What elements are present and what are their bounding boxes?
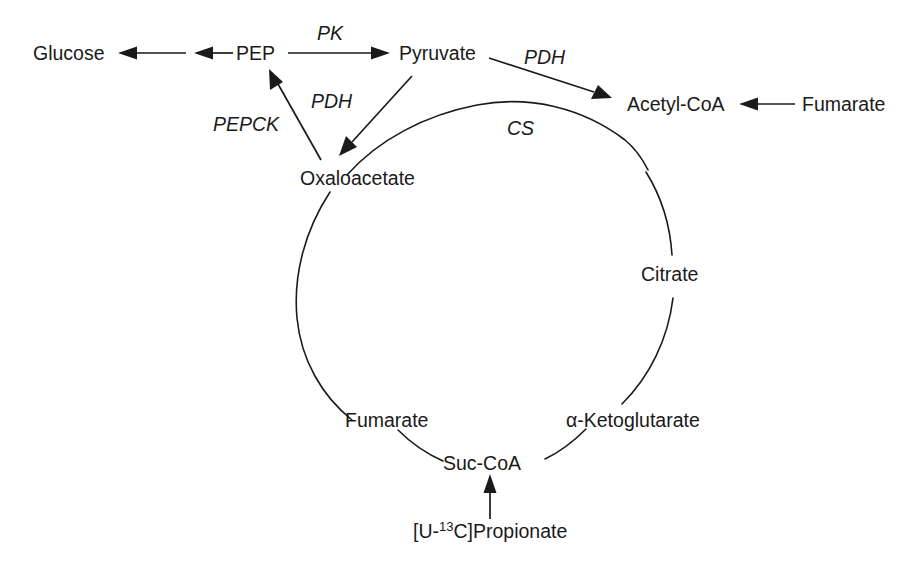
- node-label-citrate: Citrate: [641, 263, 698, 285]
- pathway-canvas: Glucose PEP Pyruvate Acetyl-CoA Fumarate…: [0, 0, 913, 568]
- arrow-fumarate-to-acetylcoa-head: [739, 98, 758, 111]
- node-label-alpha-ketoglutarate: α-Ketoglutarate: [566, 409, 700, 431]
- arrow-pep-to-glucose-segment2-head: [118, 47, 137, 60]
- propionate-prefix: [U-: [413, 520, 439, 542]
- node-label-suc-coa: Suc-CoA: [443, 452, 521, 474]
- node-label-fumarate-external: Fumarate: [802, 93, 885, 115]
- arc-fumarate-to-succoa: [398, 430, 443, 461]
- propionate-suffix: C]Propionate: [453, 520, 567, 542]
- pathway-diagram: Glucose PEP Pyruvate Acetyl-CoA Fumarate…: [0, 0, 913, 568]
- arrow-pep-to-pyruvate-head: [371, 47, 390, 60]
- arrow-propionate-to-succoa-head: [484, 474, 497, 493]
- node-label-propionate: [U-13C]Propionate: [413, 519, 567, 542]
- enzyme-label-pdh-top: PDH: [524, 46, 566, 68]
- node-label-oxaloacetate: Oxaloacetate: [300, 167, 415, 189]
- enzyme-label-pk: PK: [317, 22, 344, 44]
- arc-cs-top: [347, 102, 648, 175]
- arrow-pyruvate-to-acetylcoa-head: [591, 85, 612, 99]
- arc-citrate-to-top: [646, 172, 672, 255]
- enzyme-label-pepck: PEPCK: [213, 113, 280, 135]
- arrow-pep-to-glucose-segment1-head: [194, 47, 213, 60]
- arrow-oxaloacetate-to-pep-head: [269, 69, 283, 90]
- enzyme-label-cs: CS: [507, 117, 534, 139]
- enzyme-label-pdh-left: PDH: [311, 90, 353, 112]
- arc-ketoglutarate-to-citrate: [622, 298, 673, 404]
- propionate-superscript: 13: [439, 519, 453, 534]
- node-label-pyruvate: Pyruvate: [399, 42, 476, 64]
- node-label-glucose: Glucose: [33, 42, 105, 64]
- node-label-fumarate-cycle: Fumarate: [345, 409, 428, 431]
- arc-succoa-to-ketoglutarate: [545, 429, 586, 459]
- arc-oxaloacetate-to-fumarate: [296, 192, 352, 420]
- node-label-acetyl-coa: Acetyl-CoA: [627, 93, 725, 115]
- node-label-pep: PEP: [236, 42, 275, 64]
